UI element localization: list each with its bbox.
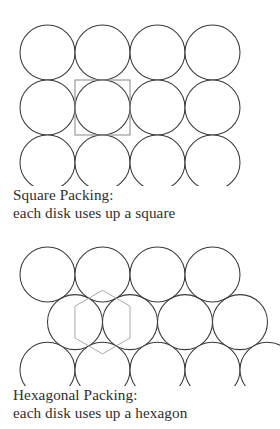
packing-disk	[213, 295, 268, 350]
packing-disk	[185, 80, 240, 135]
packing-disk	[130, 247, 185, 302]
square-packing-caption: Square Packing: each disk uses up a squa…	[13, 186, 175, 221]
packing-disk	[158, 295, 213, 350]
packing-disk	[75, 25, 130, 80]
packing-disk	[20, 247, 75, 302]
packing-disk	[185, 135, 240, 186]
packing-disk	[75, 80, 130, 135]
packing-disk	[130, 25, 185, 80]
square-caption-line-1: Square Packing:	[13, 186, 175, 204]
square-packing-diagram	[0, 0, 280, 186]
packing-disk	[75, 247, 130, 302]
packing-disk	[20, 80, 75, 135]
packing-disk	[185, 247, 240, 302]
packing-disk	[20, 25, 75, 80]
hexagon-caption-line-2: each disk uses up a hexagon	[13, 404, 187, 422]
square-caption-line-2: each disk uses up a square	[13, 204, 175, 222]
circle-packing-figure: Square Packing: each disk uses up a squa…	[0, 0, 280, 429]
packing-disk	[75, 135, 130, 186]
hexagonal-packing-panel	[0, 222, 280, 386]
square-packing-panel	[0, 0, 280, 186]
packing-disk	[130, 80, 185, 135]
hexagonal-packing-diagram	[0, 222, 280, 386]
hexagonal-packing-caption: Hexagonal Packing: each disk uses up a h…	[13, 386, 187, 421]
packing-disk	[130, 135, 185, 186]
hexagon-caption-line-1: Hexagonal Packing:	[13, 386, 187, 404]
packing-disk	[20, 135, 75, 186]
packing-disk	[185, 25, 240, 80]
